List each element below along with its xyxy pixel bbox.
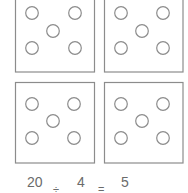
dot xyxy=(68,98,81,111)
dot xyxy=(115,132,128,145)
dot xyxy=(47,25,60,38)
group-top-left xyxy=(16,0,95,72)
dot xyxy=(26,42,39,55)
dot xyxy=(157,7,170,20)
dividend: 20 xyxy=(27,175,43,189)
equals-sign: = xyxy=(98,184,104,193)
divisor: 4 xyxy=(77,175,85,189)
quotient: 5 xyxy=(121,175,129,189)
dot xyxy=(69,7,82,20)
dot xyxy=(136,115,149,128)
group-bottom-left xyxy=(16,83,95,164)
group-top-right xyxy=(105,0,184,72)
dot xyxy=(26,7,39,20)
dot xyxy=(47,115,60,128)
divide-sign: ÷ xyxy=(53,184,59,193)
group-box xyxy=(105,83,184,164)
dot xyxy=(157,42,170,55)
dot xyxy=(26,98,39,111)
dot xyxy=(115,7,128,20)
dot xyxy=(136,25,149,38)
grouping-diagram xyxy=(0,0,188,193)
dot xyxy=(157,98,170,111)
dot xyxy=(157,132,170,145)
group-box xyxy=(105,0,184,72)
dot xyxy=(26,132,39,145)
group-bottom-right xyxy=(105,83,184,164)
dot xyxy=(69,42,82,55)
dot xyxy=(68,132,81,145)
dot xyxy=(115,42,128,55)
group-box xyxy=(16,0,95,72)
dot xyxy=(115,98,128,111)
group-box xyxy=(16,83,95,164)
